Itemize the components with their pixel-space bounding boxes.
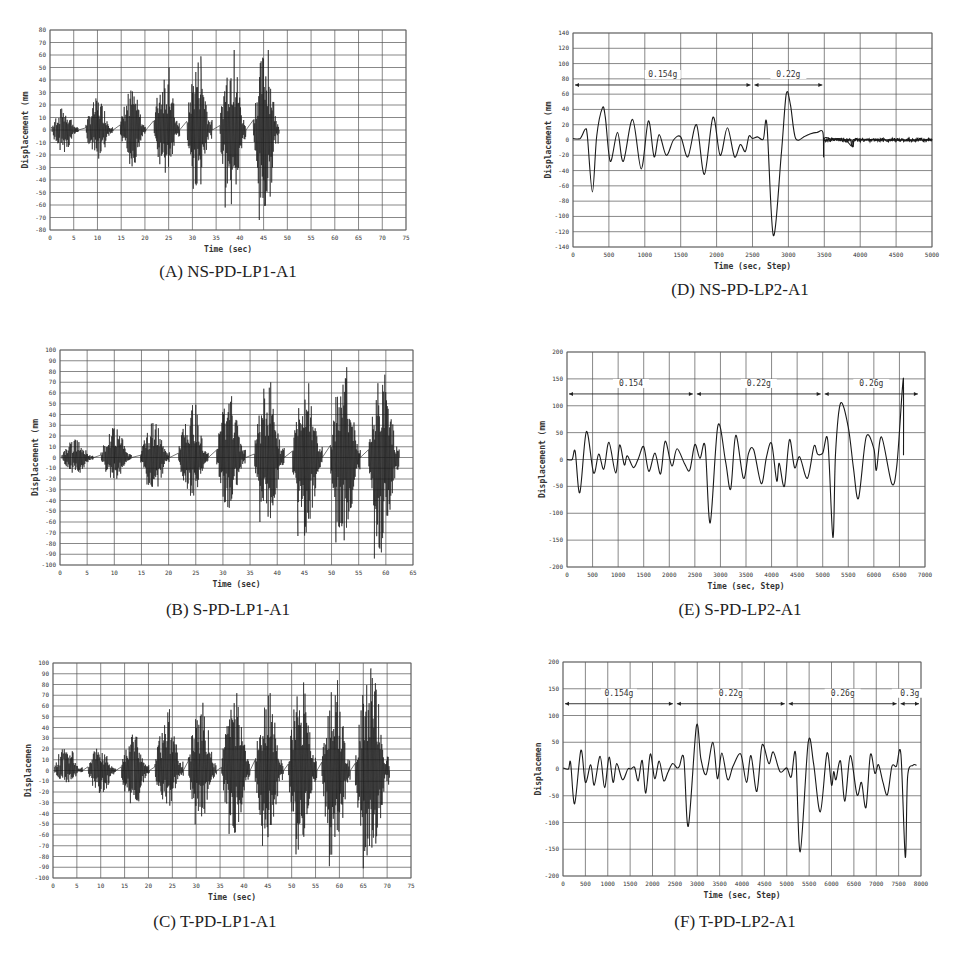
svg-text:100: 100 — [548, 712, 559, 719]
chart-f: 200150100500-50-100-150-2000500100015002… — [0, 0, 961, 965]
svg-text:4500: 4500 — [757, 880, 772, 887]
svg-text:0.22g: 0.22g — [719, 689, 743, 698]
svg-text:0.154g: 0.154g — [604, 689, 633, 698]
svg-text:-200: -200 — [545, 872, 560, 879]
caption-f: (F) T-PD-LP2-A1 — [635, 912, 835, 932]
svg-text:150: 150 — [548, 685, 559, 692]
range-annotation: 0.3g — [892, 689, 928, 706]
svg-text:50: 50 — [552, 738, 560, 745]
svg-text:0.3g: 0.3g — [900, 689, 919, 698]
svg-text:7500: 7500 — [891, 880, 906, 887]
svg-text:2000: 2000 — [645, 880, 660, 887]
svg-text:500: 500 — [580, 880, 591, 887]
range-annotation: 0.22g — [677, 689, 785, 706]
svg-text:2500: 2500 — [668, 880, 683, 887]
displacement-series — [563, 724, 917, 857]
svg-text:0.26g: 0.26g — [831, 689, 855, 698]
y-axis-label: Displacemen — [533, 742, 543, 795]
range-annotation: 0.154g — [565, 689, 673, 706]
svg-text:-100: -100 — [545, 819, 560, 826]
svg-text:0: 0 — [561, 880, 565, 887]
svg-text:6500: 6500 — [847, 880, 862, 887]
svg-text:8000: 8000 — [914, 880, 929, 887]
svg-text:5500: 5500 — [802, 880, 817, 887]
svg-text:1000: 1000 — [601, 880, 616, 887]
svg-text:-150: -150 — [545, 845, 560, 852]
svg-text:6000: 6000 — [824, 880, 839, 887]
svg-text:0: 0 — [555, 765, 559, 772]
range-annotation: 0.26g — [789, 689, 897, 706]
svg-text:5000: 5000 — [780, 880, 795, 887]
svg-text:200: 200 — [548, 658, 559, 665]
svg-text:-50: -50 — [548, 792, 559, 799]
svg-text:3500: 3500 — [712, 880, 727, 887]
svg-text:1500: 1500 — [623, 880, 638, 887]
svg-text:4000: 4000 — [735, 880, 750, 887]
x-axis-label: Time (sec, Step) — [703, 890, 780, 900]
svg-text:7000: 7000 — [869, 880, 884, 887]
svg-text:3000: 3000 — [690, 880, 705, 887]
